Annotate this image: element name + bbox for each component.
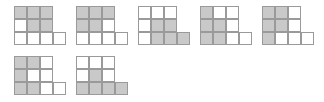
grid-cell-empty	[151, 6, 164, 19]
grid-cell-shaded	[151, 32, 164, 45]
grid-cell-empty	[14, 32, 27, 45]
grid-cell-empty	[102, 69, 115, 82]
grid-cell-empty	[102, 32, 115, 45]
grid-cell-shaded	[151, 19, 164, 32]
grid-cell-empty	[275, 32, 288, 45]
grid-cell-empty	[138, 32, 151, 45]
grid-cell-shaded	[275, 6, 288, 19]
grid-cell-empty	[40, 69, 53, 82]
grid-cell-shaded	[27, 6, 40, 19]
grid-cell-shaded	[27, 19, 40, 32]
grid-cell-shaded	[89, 69, 102, 82]
grid-figure	[76, 6, 128, 45]
grid-cell-shaded	[164, 32, 177, 45]
grid-cell-empty	[115, 32, 128, 45]
grid-cell-empty	[76, 69, 89, 82]
grid-cell-empty	[27, 69, 40, 82]
grid-cell-empty	[213, 6, 226, 19]
grid-cell-shaded	[89, 82, 102, 95]
grid-cell-shaded	[213, 19, 226, 32]
grid-cell-shaded	[115, 82, 128, 95]
grid-cell-empty	[14, 19, 27, 32]
grid-cell-shaded	[200, 19, 213, 32]
grid-cell-shaded	[14, 56, 27, 69]
grid-cell-empty	[164, 6, 177, 19]
grid-cell-shaded	[27, 56, 40, 69]
grid-cell-shaded	[14, 69, 27, 82]
grid-cell-shaded	[262, 19, 275, 32]
grid-cell-empty	[40, 32, 53, 45]
grid-figure	[138, 6, 190, 45]
grid-cell-shaded	[40, 19, 53, 32]
grid-figure	[262, 6, 314, 45]
grid-figure	[14, 56, 66, 95]
grid-cell-empty	[76, 32, 89, 45]
grid-cell-shaded	[40, 6, 53, 19]
grid-cell-empty	[89, 56, 102, 69]
grid-cell-empty	[226, 19, 239, 32]
grid-cell-shaded	[14, 6, 27, 19]
grid-cell-shaded	[213, 32, 226, 45]
grid-cell-empty	[76, 56, 89, 69]
figure-row-bottom	[0, 56, 324, 95]
grid-cell-empty	[40, 56, 53, 69]
grid-cell-empty	[138, 19, 151, 32]
grid-cell-shaded	[164, 19, 177, 32]
grid-cell-empty	[138, 6, 151, 19]
grid-cell-empty	[27, 32, 40, 45]
grid-cell-empty	[102, 56, 115, 69]
grid-cell-shaded	[76, 82, 89, 95]
grid-cell-empty	[239, 32, 252, 45]
grid-figure	[14, 6, 66, 45]
grid-cell-shaded	[89, 6, 102, 19]
grid-cell-shaded	[76, 6, 89, 19]
grid-cell-shaded	[275, 19, 288, 32]
grid-cell-empty	[226, 6, 239, 19]
grid-cell-shaded	[89, 19, 102, 32]
grid-cell-empty	[301, 32, 314, 45]
grid-cell-shaded	[102, 82, 115, 95]
grid-cell-empty	[288, 19, 301, 32]
grid-cell-empty	[226, 32, 239, 45]
grid-cell-shaded	[200, 32, 213, 45]
grid-cell-empty	[102, 19, 115, 32]
grid-cell-empty	[40, 82, 53, 95]
grid-cell-shaded	[76, 19, 89, 32]
grid-cell-empty	[53, 32, 66, 45]
grid-figure	[200, 6, 252, 45]
grid-cell-empty	[288, 32, 301, 45]
grid-cell-shaded	[14, 82, 27, 95]
grid-cell-shaded	[27, 82, 40, 95]
grid-cell-shaded	[262, 32, 275, 45]
grid-figure	[76, 56, 128, 95]
grid-cell-empty	[89, 32, 102, 45]
grid-cell-shaded	[102, 6, 115, 19]
grid-cell-empty	[288, 6, 301, 19]
figure-sheet	[0, 0, 324, 102]
grid-cell-shaded	[262, 6, 275, 19]
figure-row-top	[0, 6, 324, 45]
grid-cell-shaded	[200, 6, 213, 19]
grid-cell-shaded	[177, 32, 190, 45]
grid-cell-empty	[53, 82, 66, 95]
